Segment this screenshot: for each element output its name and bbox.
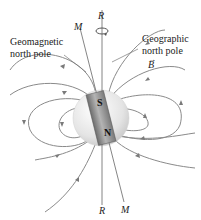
magnetic-axis-label-bottom: M <box>121 204 129 215</box>
magnet-south-label: S <box>97 97 103 108</box>
magnetic-axis-label-top: M <box>74 21 82 32</box>
rotation-axis-label-top: R <box>98 10 104 21</box>
rotation-axis-label-bottom: R <box>99 205 105 216</box>
magnet-north-label: N <box>104 127 111 138</box>
field-vector-label: → B <box>148 59 154 70</box>
geomagnetic-north-pole-label-1: Geomagnetic <box>10 36 63 47</box>
geographic-north-pole-label-1: Geographic <box>142 33 189 44</box>
geomagnetic-north-pole-label-2: north pole <box>10 48 51 59</box>
